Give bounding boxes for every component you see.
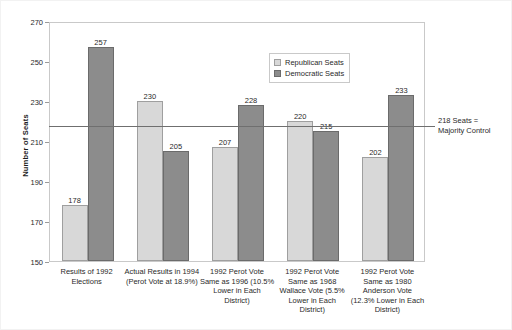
y-tick-label: 230 (15, 98, 43, 107)
bar-value-label: 207 (219, 138, 232, 147)
x-axis-label-line: Same as 1996 (10.5% (194, 277, 280, 287)
plot-area: 178257230205207228220215202233 (49, 22, 425, 262)
legend-item-democratic: Democratic Seats (274, 68, 344, 79)
majority-threshold-line-text: Majority Control (438, 126, 512, 136)
bar-republican (137, 101, 163, 261)
y-tick-label: 250 (15, 58, 43, 67)
chart-figure: Number of Seats 150170190210230250270 17… (0, 0, 512, 330)
bar-democratic (163, 151, 189, 261)
x-axis-label-line: 1992 Perot Vote (341, 267, 433, 277)
x-axis-label-line: District) (194, 296, 280, 306)
majority-threshold-line-text: 218 Seats = (438, 116, 512, 126)
x-axis-label-line: Same as 1980 (341, 277, 433, 287)
y-tick-mark (45, 262, 49, 263)
x-axis-label-line: Lower in Each (194, 286, 280, 296)
y-tick-label: 270 (15, 18, 43, 27)
x-axis-label: Results of 1992Elections (48, 267, 126, 286)
legend-swatch-icon (274, 70, 281, 77)
x-axis-label-line: (12.3% Lower in Each (341, 296, 433, 306)
x-axis-label-line: District) (341, 305, 433, 315)
bar-democratic (238, 105, 264, 261)
bar-value-label: 228 (245, 96, 258, 105)
x-axis-label: 1992 Perot VoteSame as 1980Anderson Vote… (341, 267, 433, 315)
bar-republican (62, 205, 88, 261)
legend: Republican SeatsDemocratic Seats (269, 53, 350, 83)
legend-label: Democratic Seats (285, 69, 344, 78)
x-axis-label: 1992 Perot VoteSame as 1996 (10.5%Lower … (194, 267, 280, 305)
x-axis-label-line: Anderson Vote (341, 286, 433, 296)
bar-value-label: 178 (68, 196, 81, 205)
x-axis-label-line: Elections (48, 277, 126, 287)
bar-value-label: 220 (294, 112, 307, 121)
bar-value-label: 202 (369, 148, 382, 157)
bar-democratic (313, 131, 339, 261)
bar-value-label: 205 (170, 142, 183, 151)
legend-swatch-icon (274, 59, 281, 66)
bar-value-label: 233 (395, 86, 408, 95)
y-tick-label: 210 (15, 138, 43, 147)
bar-republican (362, 157, 388, 261)
bar-republican (287, 121, 313, 261)
bar-value-label: 257 (94, 38, 107, 47)
x-axis-label-line: 1992 Perot Vote (194, 267, 280, 277)
legend-label: Republican Seats (285, 58, 344, 67)
y-tick-label: 170 (15, 218, 43, 227)
legend-item-republican: Republican Seats (274, 57, 344, 68)
y-tick-label: 150 (15, 258, 43, 267)
bar-democratic (88, 47, 114, 261)
majority-threshold-label: 218 Seats =Majority Control (438, 116, 512, 136)
y-tick-label: 190 (15, 178, 43, 187)
bar-democratic (388, 95, 414, 261)
bar-value-label: 230 (144, 92, 157, 101)
majority-threshold-line (49, 126, 435, 127)
bar-republican (212, 147, 238, 261)
x-axis-label-line: Results of 1992 (48, 267, 126, 277)
